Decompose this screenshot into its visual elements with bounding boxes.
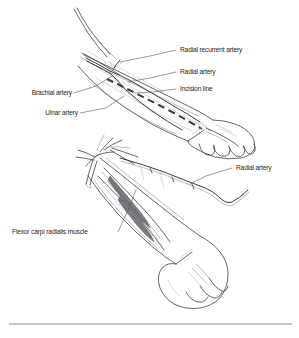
finger-index	[213, 146, 230, 156]
label-ulnar-artery: Ulnar artery	[45, 109, 78, 117]
lower-finger-2	[200, 286, 222, 298]
leader-radial-artery-upper	[128, 72, 176, 82]
label-flexor-carpi-radialis-muscle: Flexor carpi radialis muscle	[12, 228, 88, 236]
radial-artery-loop-edge	[200, 189, 249, 206]
anatomy-figure: Radial recurrent artery Radial artery In…	[0, 0, 299, 338]
radial-artery-loop	[200, 186, 248, 203]
hand-tendon-2	[221, 129, 236, 136]
lower-hand-tendon-3	[188, 272, 203, 288]
brachial-artery-vessel	[86, 58, 110, 71]
wrist-crease	[192, 126, 204, 134]
retractor-blade-6	[76, 157, 94, 160]
retractor-handle-left-edge	[90, 161, 97, 185]
finger-middle	[229, 146, 245, 157]
finger-little	[199, 144, 215, 155]
leader-ulnar-artery	[80, 96, 124, 113]
upper-arm-lateral-outline-inner	[74, 9, 107, 57]
lower-finger-1	[186, 292, 208, 302]
retractor-handle-left	[86, 160, 93, 184]
retractor-blade-7	[106, 147, 130, 148]
label-radial-artery-upper: Radial artery	[180, 68, 216, 76]
lower-hand-tendon-1	[196, 264, 211, 280]
label-radial-recurrent-artery: Radial recurrent artery	[180, 46, 243, 54]
leader-radial-artery-lower	[190, 168, 232, 184]
anatomy-illustration-canvas: Radial recurrent artery Radial artery In…	[0, 0, 299, 338]
vessel-side-branch-1	[140, 164, 144, 180]
retractor-blade-1	[112, 148, 138, 157]
dissection-proximal-edge	[96, 152, 114, 156]
retractor-blade-2	[110, 150, 134, 164]
leader-radial-recurrent-artery	[120, 50, 176, 62]
lower-forearm-ulnar-border	[88, 176, 176, 264]
upper-panel-forearm	[74, 8, 255, 159]
flexor-muscle-belly-2	[118, 196, 154, 242]
label-incision-line: Incision line	[180, 85, 213, 92]
hand-tendon-1	[216, 125, 231, 132]
vessel-ligature-2	[172, 177, 174, 182]
thumb-outline	[206, 128, 238, 146]
lower-hand-outline-right	[200, 236, 228, 298]
leader-lines	[74, 50, 232, 232]
flexor-carpi-radialis-belly	[108, 176, 150, 228]
label-radial-artery-lower: Radial artery	[236, 164, 272, 172]
lower-hand-tendon-2	[192, 268, 207, 284]
upper-arm-lateral-outline	[77, 8, 110, 54]
wound-edge-upper	[104, 168, 170, 242]
forearm-ulnar-border	[78, 66, 188, 141]
lower-wrist-outline	[176, 252, 192, 264]
lower-hand-thenar-crease	[168, 280, 180, 296]
lower-hand-outline-left	[158, 264, 220, 309]
label-brachial-artery: Brachial artery	[32, 89, 73, 97]
wrist-outline	[188, 130, 204, 141]
retractor-blade-5	[78, 150, 95, 157]
lower-panel-dissection	[76, 135, 249, 309]
